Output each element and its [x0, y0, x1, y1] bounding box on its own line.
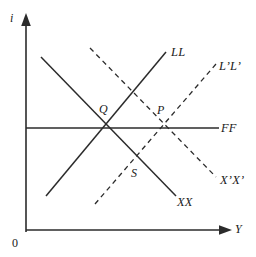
curve-label-l-prime-l-prime: L’L’ [219, 60, 241, 73]
horizontal-axis-arrow-icon [219, 225, 232, 235]
point-label-q: Q [99, 103, 108, 115]
curve-l-prime-l-prime [95, 64, 216, 204]
point-label-s: S [131, 167, 137, 179]
origin-label: 0 [12, 237, 18, 249]
diagram-svg [0, 0, 256, 257]
curve-label-xx: XX [177, 196, 193, 209]
diagram-canvas: LL L’L’ FF X’X’ XX Q P S i Y 0 [0, 0, 256, 257]
vertical-axis-arrow-icon [21, 13, 31, 26]
point-label-p: P [157, 104, 165, 116]
curve-label-x-prime-x-prime: X’X’ [220, 174, 244, 187]
curve-xx [41, 57, 176, 196]
curve-label-ff: FF [221, 122, 237, 135]
axis-label-i: i [10, 12, 14, 24]
horizontal-axis [26, 225, 232, 235]
curve-label-ll: LL [171, 46, 185, 59]
axis-label-y: Y [235, 223, 242, 235]
vertical-axis [21, 13, 31, 232]
